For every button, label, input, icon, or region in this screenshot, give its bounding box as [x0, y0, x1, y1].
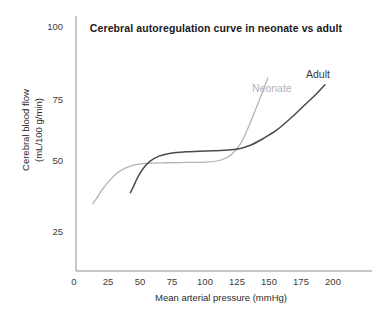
chart-container: Cerebral autoregulation curve in neonate… [0, 0, 385, 323]
plot-area [0, 0, 385, 323]
series-curve-neonate [93, 78, 268, 204]
series-curve-adult [130, 85, 324, 193]
